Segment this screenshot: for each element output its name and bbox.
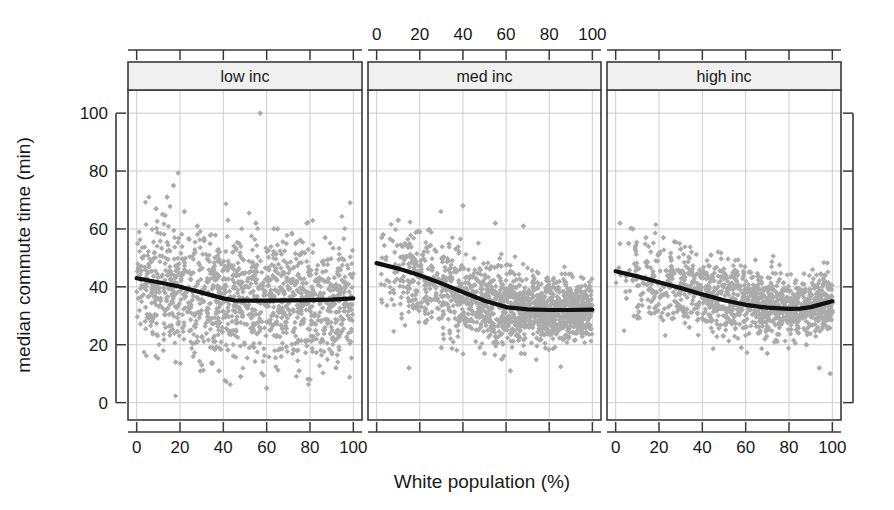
- y-tick-label: 80: [89, 162, 108, 181]
- x-tick-label: 60: [736, 438, 755, 457]
- y-axis: 020406080100: [80, 104, 126, 412]
- facet-panel-high-inc: high inc: [607, 62, 841, 420]
- facet-panel-med-inc: med inc: [368, 62, 601, 420]
- x-axis-top-panel-2: [607, 50, 841, 60]
- x-tick-label: 80: [301, 438, 320, 457]
- x-tick-label-top: 60: [497, 25, 516, 44]
- x-tick-label: 100: [339, 438, 367, 457]
- x-tick-label: 40: [693, 438, 712, 457]
- x-tick-label: 60: [257, 438, 276, 457]
- y-tick-label: 0: [99, 394, 108, 413]
- facet-panel-low-inc: low inc: [128, 62, 362, 420]
- y-tick-label: 60: [89, 220, 108, 239]
- y-tick-label: 20: [89, 336, 108, 355]
- x-axis-top-panel-0: [128, 50, 362, 60]
- x-axis-bottom-panel-2: 020406080100: [607, 422, 847, 457]
- x-tick-label-top: 20: [410, 25, 429, 44]
- x-tick-label: 40: [214, 438, 233, 457]
- x-tick-label: 0: [132, 438, 141, 457]
- x-tick-label: 80: [780, 438, 799, 457]
- x-tick-label-top: 100: [578, 25, 606, 44]
- x-axis-title: White population (%): [394, 471, 570, 492]
- scatter-plot-svg: low incmed inchigh inc 02040608010002040…: [0, 0, 894, 510]
- x-axis-top-panel-1: 020406080100: [368, 25, 607, 60]
- x-axis-bottom-panel-0: 020406080100: [128, 422, 368, 457]
- x-tick-label-top: 40: [453, 25, 472, 44]
- x-axis-bottom-panel-1: [368, 422, 601, 432]
- y-tick-label: 100: [80, 104, 108, 123]
- strip-label: low inc: [221, 68, 270, 85]
- facet-panels: low incmed inchigh inc: [128, 62, 841, 420]
- y-axis-right: [843, 113, 853, 402]
- strip-label: high inc: [696, 68, 751, 85]
- x-tick-label: 20: [171, 438, 190, 457]
- y-tick-label: 40: [89, 278, 108, 297]
- x-tick-label: 0: [611, 438, 620, 457]
- x-tick-label-top: 80: [540, 25, 559, 44]
- x-tick-label: 20: [650, 438, 669, 457]
- chart-figure: low incmed inchigh inc 02040608010002040…: [0, 0, 894, 510]
- x-tick-label: 100: [818, 438, 846, 457]
- y-axis-title: median commute time (min): [13, 137, 34, 372]
- panel-background: [607, 90, 841, 420]
- strip-label: med inc: [456, 68, 512, 85]
- x-tick-label-top: 0: [372, 25, 381, 44]
